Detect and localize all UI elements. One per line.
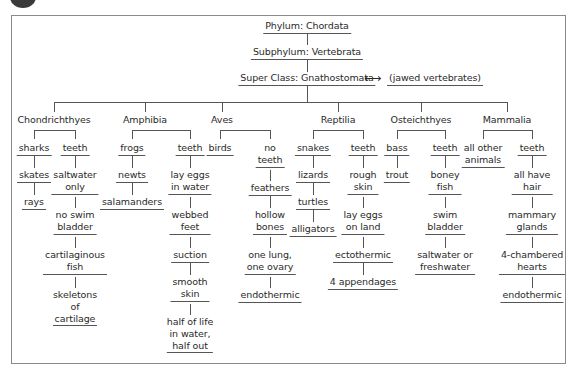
node-lizards: lizards (296, 169, 330, 183)
class-label: Reptilia (321, 114, 356, 126)
node-label: teeth (178, 142, 203, 154)
node-hollow-bones: hollowbones (253, 209, 287, 235)
connector (313, 130, 314, 139)
node-label: feet (172, 221, 209, 233)
node-skeletons-of-cartilage: skeletonsofcartilage (53, 289, 97, 326)
node-label: teeth (258, 154, 283, 166)
class-aves: Aves (211, 114, 233, 126)
phylum-node: Phylum: Chordata (263, 20, 351, 34)
node-cartilaginous-fish: cartilaginousfish (43, 249, 107, 275)
connector (363, 130, 364, 139)
node-newts: newts (116, 169, 148, 183)
node-label: rough (349, 169, 376, 181)
connector (313, 156, 314, 168)
connector (222, 102, 223, 112)
class-label: Osteichthyes (391, 114, 452, 126)
connector (270, 196, 271, 208)
class-chondrichthyes: Chondrichthyes (17, 114, 90, 126)
superclass-note-label: (jawed vertebrates) (389, 72, 481, 84)
node-birds: birds (207, 142, 234, 156)
node-label: teeth (351, 142, 376, 154)
node-label: saltwater or (417, 249, 473, 261)
node-label: turtles (298, 196, 328, 208)
connector (532, 237, 533, 248)
connector (190, 156, 191, 168)
class-reptilia: Reptilia (321, 114, 356, 126)
connector (363, 197, 364, 208)
node-ectothermic: ectothermic (333, 249, 393, 263)
node-label: teeth (63, 142, 88, 154)
connector (507, 102, 508, 112)
node-half-of-life: half of lifein water,half out (167, 316, 213, 353)
node-label: fish (45, 261, 105, 273)
connector (313, 183, 314, 195)
subphylum-node: Subphylum: Vertebrata (251, 46, 363, 60)
superclass-note: (jawed vertebrates) (387, 72, 483, 86)
sub-branch-line (397, 130, 446, 131)
node-label: frogs (120, 142, 143, 154)
connector (270, 277, 271, 288)
connector (445, 237, 446, 248)
node-teeth: teeth (61, 142, 90, 156)
class-osteichthyes: Osteichthyes (391, 114, 452, 126)
connector (190, 197, 191, 208)
node-label: bladder (56, 221, 95, 233)
node-feathers: feathers (249, 182, 292, 196)
node-no-swim-bladder: no swimbladder (54, 209, 97, 235)
node-label: lizards (298, 169, 328, 181)
connector (363, 263, 364, 275)
node-label: in water (170, 181, 209, 193)
connector (445, 197, 446, 208)
node-label: freshwater (417, 261, 473, 273)
connector (363, 156, 364, 168)
node-label: hollow (255, 209, 285, 221)
node-all-have-hair: all havehair (512, 169, 553, 195)
node-label: suction (173, 249, 207, 261)
node-label: bones (255, 221, 285, 233)
node-label: lay eggs (170, 169, 209, 181)
node-label: feathers (251, 182, 290, 194)
node-label: cartilage (53, 313, 97, 326)
node-webbed-feet: webbedfeet (170, 209, 211, 235)
node-label: rays (24, 196, 44, 208)
sub-branch-line (34, 130, 76, 131)
node-suction: suction (171, 249, 209, 263)
double-arrow-icon: ⟷ (364, 72, 381, 84)
node-mammary-glands: mammaryglands (506, 209, 558, 235)
connector (132, 130, 133, 139)
connector (220, 130, 221, 139)
node-label: of (53, 301, 97, 313)
node-label: hair (514, 181, 551, 193)
node-bass: bass (384, 142, 409, 156)
node-frogs: frogs (118, 142, 145, 156)
connector (307, 34, 308, 45)
node-label: no swim (56, 209, 95, 221)
connector (132, 183, 133, 195)
node-label: cartilaginous (45, 249, 105, 261)
node-label: half of life (167, 316, 213, 328)
class-amphibia: Amphibia (123, 114, 167, 126)
corner-decoration (10, 0, 36, 8)
connector (363, 237, 364, 248)
connector (75, 197, 76, 208)
node-lay-eggs-in-water: lay eggsin water (168, 169, 211, 195)
sub-branch-line (483, 130, 533, 131)
node-label: teeth (520, 142, 545, 154)
node-label: swim (427, 209, 463, 221)
node-label: animals (464, 154, 503, 166)
connector (421, 102, 422, 112)
node-label: saltwater (53, 169, 96, 181)
node-label: all other (464, 142, 503, 154)
class-label: Amphibia (123, 114, 167, 126)
phylum-label: Phylum: Chordata (265, 20, 349, 32)
node-alligators: alligators (290, 223, 337, 237)
connector (532, 197, 533, 208)
sub-branch-line (313, 130, 364, 131)
node-snakes: snakes (295, 142, 331, 156)
connector (313, 210, 314, 222)
connector (190, 304, 191, 315)
node-label: one lung, (247, 249, 294, 261)
connector (338, 102, 339, 112)
node-label: smooth (173, 276, 208, 288)
connector (483, 130, 484, 139)
